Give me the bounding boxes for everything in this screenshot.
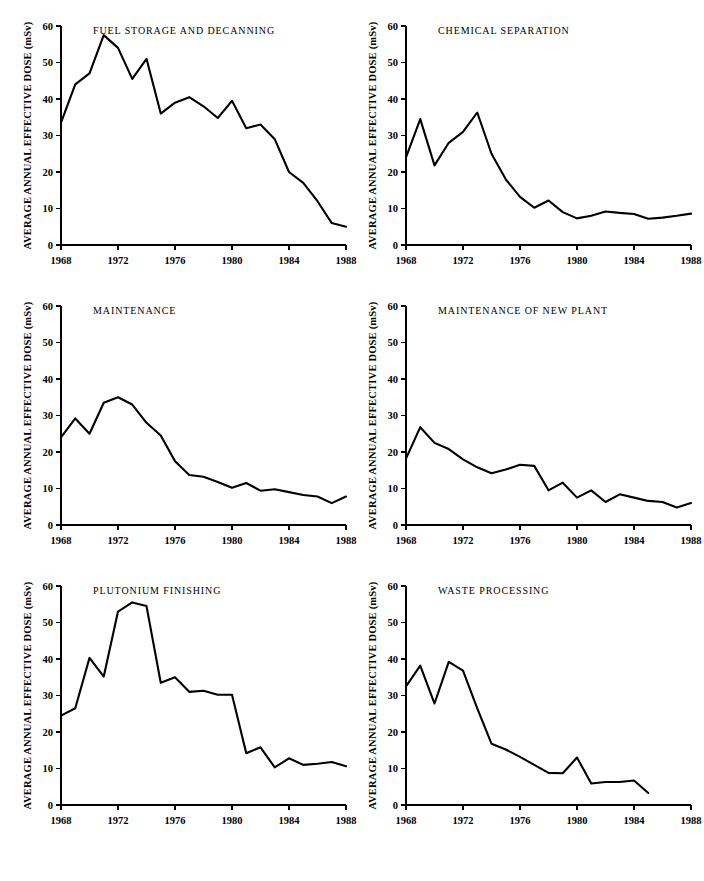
- x-tick-label: 1976: [165, 535, 186, 546]
- data-series-line: [61, 397, 346, 503]
- y-axis-title: AVERAGE ANNUAL EFFECTIVE DOSE (mSv): [22, 581, 34, 809]
- chart-title: PLUTONIUM FINISHING: [93, 585, 221, 596]
- y-tick-label: 0: [48, 520, 53, 531]
- x-tick-label: 1988: [681, 535, 702, 546]
- chart-panel: 0102030405060196819721976198019841988AVE…: [359, 0, 704, 290]
- data-series-line: [61, 35, 346, 227]
- x-tick-label: 1984: [624, 535, 646, 546]
- y-tick-label: 10: [388, 763, 399, 774]
- x-tick-label: 1968: [396, 535, 417, 546]
- y-tick-label: 20: [388, 727, 399, 738]
- x-tick-label: 1972: [108, 255, 129, 266]
- y-tick-label: 20: [43, 447, 54, 458]
- y-tick-label: 10: [43, 203, 54, 214]
- y-tick-label: 30: [388, 410, 399, 421]
- x-tick-label: 1976: [510, 535, 531, 546]
- y-tick-label: 0: [48, 240, 53, 251]
- y-tick-label: 30: [43, 690, 54, 701]
- x-tick-label: 1984: [624, 255, 646, 266]
- y-tick-label: 50: [388, 57, 399, 68]
- x-tick-label: 1984: [279, 815, 301, 826]
- x-tick-label: 1988: [336, 535, 357, 546]
- x-tick-label: 1968: [396, 815, 417, 826]
- y-tick-label: 40: [43, 94, 54, 105]
- y-tick-label: 40: [388, 374, 399, 385]
- x-tick-label: 1988: [336, 815, 357, 826]
- x-tick-label: 1984: [279, 535, 301, 546]
- x-tick-label: 1968: [51, 535, 72, 546]
- data-series-line: [406, 662, 648, 793]
- x-tick-label: 1972: [108, 535, 129, 546]
- y-tick-label: 50: [43, 57, 54, 68]
- chart-title: MAINTENANCE: [93, 305, 176, 316]
- x-tick-label: 1972: [453, 815, 474, 826]
- x-tick-label: 1988: [336, 255, 357, 266]
- y-tick-label: 10: [388, 203, 399, 214]
- chart-panel: 0102030405060196819721976198019841988AVE…: [14, 0, 359, 290]
- x-tick-label: 1988: [681, 255, 702, 266]
- x-tick-label: 1980: [222, 255, 243, 266]
- y-tick-label: 30: [388, 690, 399, 701]
- chart-panel: 0102030405060196819721976198019841988AVE…: [359, 560, 704, 850]
- y-tick-label: 50: [43, 617, 54, 628]
- y-tick-label: 0: [393, 520, 398, 531]
- y-tick-label: 20: [43, 167, 54, 178]
- x-tick-label: 1976: [510, 815, 531, 826]
- y-tick-label: 0: [393, 800, 398, 811]
- x-tick-label: 1976: [510, 255, 531, 266]
- y-tick-label: 60: [388, 21, 399, 32]
- y-tick-label: 60: [43, 581, 54, 592]
- x-tick-label: 1980: [567, 535, 588, 546]
- x-tick-label: 1980: [222, 815, 243, 826]
- chart-title: CHEMICAL SEPARATION: [438, 25, 570, 36]
- y-tick-label: 10: [43, 763, 54, 774]
- chart-panel: 0102030405060196819721976198019841988AVE…: [359, 280, 704, 570]
- y-tick-label: 20: [43, 727, 54, 738]
- x-tick-label: 1984: [624, 815, 646, 826]
- y-tick-label: 40: [388, 654, 399, 665]
- x-tick-label: 1968: [51, 815, 72, 826]
- y-tick-label: 20: [388, 167, 399, 178]
- y-axis-title: AVERAGE ANNUAL EFFECTIVE DOSE (mSv): [22, 21, 34, 249]
- y-tick-label: 60: [43, 301, 54, 312]
- x-tick-label: 1988: [681, 815, 702, 826]
- data-series-line: [61, 602, 346, 767]
- y-tick-label: 60: [388, 581, 399, 592]
- y-tick-label: 40: [388, 94, 399, 105]
- y-axis-title: AVERAGE ANNUAL EFFECTIVE DOSE (mSv): [367, 301, 379, 529]
- y-tick-label: 40: [43, 654, 54, 665]
- chart-title: WASTE PROCESSING: [438, 585, 549, 596]
- y-tick-label: 30: [388, 130, 399, 141]
- x-tick-label: 1972: [453, 255, 474, 266]
- chart-title: FUEL STORAGE AND DECANNING: [93, 25, 275, 36]
- y-tick-label: 30: [43, 410, 54, 421]
- y-tick-label: 0: [48, 800, 53, 811]
- y-axis-title: AVERAGE ANNUAL EFFECTIVE DOSE (mSv): [367, 581, 379, 809]
- x-tick-label: 1968: [51, 255, 72, 266]
- y-tick-label: 40: [43, 374, 54, 385]
- chart-panel: 0102030405060196819721976198019841988AVE…: [14, 560, 359, 850]
- chart-title: MAINTENANCE OF NEW PLANT: [438, 305, 608, 316]
- x-tick-label: 1968: [396, 255, 417, 266]
- x-tick-label: 1980: [222, 535, 243, 546]
- y-tick-label: 0: [393, 240, 398, 251]
- x-tick-label: 1984: [279, 255, 301, 266]
- y-tick-label: 30: [43, 130, 54, 141]
- data-series-line: [406, 427, 691, 507]
- data-series-line: [406, 113, 691, 219]
- y-axis-title: AVERAGE ANNUAL EFFECTIVE DOSE (mSv): [22, 301, 34, 529]
- y-tick-label: 10: [43, 483, 54, 494]
- y-tick-label: 50: [388, 337, 399, 348]
- x-tick-label: 1980: [567, 815, 588, 826]
- y-tick-label: 20: [388, 447, 399, 458]
- x-tick-label: 1976: [165, 255, 186, 266]
- y-axis-title: AVERAGE ANNUAL EFFECTIVE DOSE (mSv): [367, 21, 379, 249]
- x-tick-label: 1976: [165, 815, 186, 826]
- y-tick-label: 60: [388, 301, 399, 312]
- y-tick-label: 50: [43, 337, 54, 348]
- y-tick-label: 10: [388, 483, 399, 494]
- chart-panel: 0102030405060196819721976198019841988AVE…: [14, 280, 359, 570]
- x-tick-label: 1972: [108, 815, 129, 826]
- x-tick-label: 1972: [453, 535, 474, 546]
